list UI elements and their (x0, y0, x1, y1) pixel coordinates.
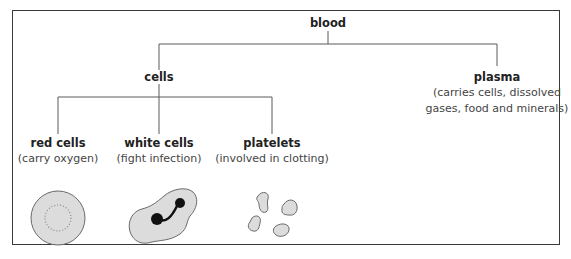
node-white-cells: white cells (fight infection) (104, 135, 214, 167)
red-blood-cell-icon (31, 191, 85, 245)
node-blood: blood (298, 15, 358, 31)
tree-connectors (0, 0, 571, 259)
node-plasma-label: plasma (422, 69, 571, 85)
platelets-icon (248, 192, 297, 236)
node-white-cells-desc: (fight infection) (104, 151, 214, 167)
node-white-cells-label: white cells (104, 135, 214, 151)
white-blood-cell-icon (129, 189, 196, 243)
node-platelets: platelets (involved in clotting) (207, 135, 337, 167)
node-red-cells-label: red cells (8, 135, 108, 151)
node-platelets-label: platelets (207, 135, 337, 151)
node-plasma-desc-2: gases, food and minerals) (422, 101, 571, 117)
node-blood-label: blood (298, 15, 358, 31)
node-cells-label: cells (129, 69, 189, 85)
node-plasma-desc-1: (carries cells, dissolved (422, 85, 571, 101)
node-plasma: plasma (carries cells, dissolved gases, … (422, 69, 571, 117)
node-red-cells: red cells (carry oxygen) (8, 135, 108, 167)
node-red-cells-desc: (carry oxygen) (8, 151, 108, 167)
node-cells: cells (129, 69, 189, 85)
node-platelets-desc: (involved in clotting) (207, 151, 337, 167)
